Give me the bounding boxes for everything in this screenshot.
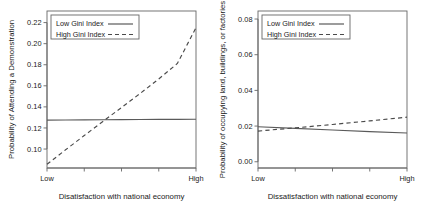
y-tick-label: 0.08 [238, 15, 252, 24]
y-tick-label: 0.04 [238, 86, 252, 95]
x-axis-title: Disatisfaction with national economy [59, 192, 185, 201]
x-axis-title: Dissatisfaction with national economy [268, 192, 398, 201]
y-tick-label: 0.00 [238, 157, 252, 166]
y-tick-label: 0.02 [238, 122, 252, 131]
x-tick-label: Low [40, 174, 54, 183]
y-tick-label: 0.14 [27, 102, 41, 111]
left-plot-svg: 0.100.120.140.160.180.200.22LowHighDisat… [0, 0, 210, 213]
legend-label-high-gini: High Gini Index [267, 30, 317, 39]
x-tick-label: Low [251, 174, 265, 183]
series-line-low-gini [47, 119, 196, 120]
y-tick-label: 0.18 [27, 60, 41, 69]
y-tick-label: 0.12 [27, 124, 41, 133]
x-tick-label: High [399, 174, 414, 183]
chart-panel-right: 0.000.020.040.060.08LowHighDissatisfacti… [211, 0, 421, 213]
figure-container: 0.100.120.140.160.180.200.22LowHighDisat… [0, 0, 421, 213]
series-line-high-gini [258, 117, 407, 131]
x-tick-label: High [188, 174, 203, 183]
y-tick-label: 0.10 [27, 145, 41, 154]
y-tick-label: 0.20 [27, 39, 41, 48]
right-plot-svg: 0.000.020.040.060.08LowHighDissatisfacti… [211, 0, 421, 213]
y-axis-title: Probability of occupying land, buildings… [218, 1, 227, 178]
legend-label-low-gini: Low Gini Index [267, 19, 315, 28]
y-tick-label: 0.06 [238, 50, 252, 59]
y-axis-title: Probability of Attending a Demonstration [7, 20, 16, 159]
series-line-low-gini [258, 127, 407, 133]
y-tick-label: 0.22 [27, 18, 41, 27]
legend-label-low-gini: Low Gini Index [56, 19, 104, 28]
series-line-high-gini [47, 28, 196, 165]
y-tick-label: 0.16 [27, 81, 41, 90]
legend-label-high-gini: High Gini Index [56, 30, 106, 39]
chart-panel-left: 0.100.120.140.160.180.200.22LowHighDisat… [0, 0, 210, 213]
